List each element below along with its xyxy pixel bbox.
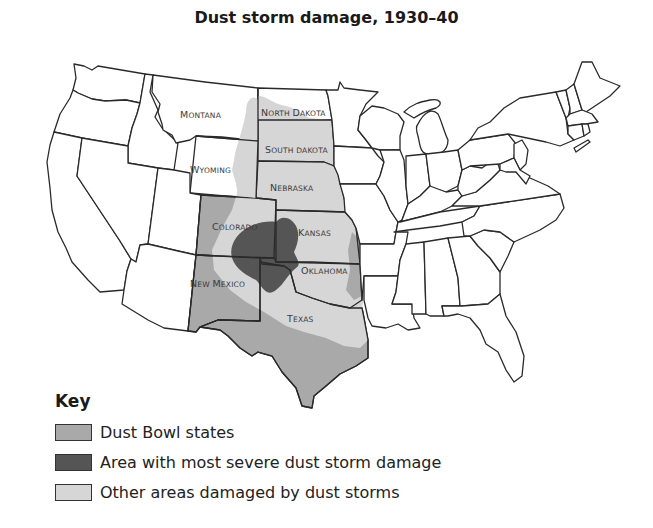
label-kansas: KANSAS [298,227,331,238]
swatch-other-damaged [55,484,92,501]
label-wyoming: WYOMING [190,164,231,175]
label-montana: MONTANA [180,109,222,120]
label-colorado: COLORADO [212,221,258,232]
label-north-dakota: NORTH DAKOTA [261,107,326,118]
state-iowa [334,146,384,184]
state-rhode-island [582,124,590,136]
map-key: Key Dust Bowl states Area with most seve… [55,391,441,507]
key-label: Dust Bowl states [100,423,234,442]
label-south-dakota: SOUTH DAKOTA [265,144,328,155]
label-new-mexico: NEW MEXICO [190,278,245,289]
key-item-dust-bowl-states: Dust Bowl states [55,417,441,447]
key-item-most-severe: Area with most severe dust storm damage [55,447,441,477]
state-maine [574,62,620,112]
state-florida [442,294,524,382]
swatch-dust-bowl-states [55,424,92,441]
long-island [574,140,590,152]
key-title: Key [55,391,441,411]
label-texas: TEXAS [286,313,314,324]
state-south-dakota [258,120,334,166]
key-label: Other areas damaged by dust storms [100,483,400,502]
key-label: Area with most severe dust storm damage [100,453,441,472]
state-ohio [426,150,462,192]
label-nebraska: NEBRASKA [270,182,314,193]
key-item-other-damaged: Other areas damaged by dust storms [55,477,441,507]
swatch-most-severe [55,454,92,471]
state-new-york [470,92,574,146]
label-oklahoma: OKLAHOMA [301,265,348,276]
state-michigan [404,100,448,155]
